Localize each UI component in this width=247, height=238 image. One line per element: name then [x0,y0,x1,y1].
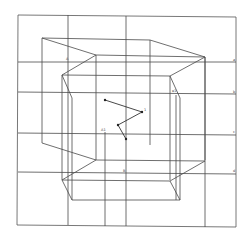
label-zigzag-2: 1 [144,108,146,112]
vertical-grid [68,15,205,227]
wireframe-drawing: A a b c d e1 A1 B 1 [0,0,247,238]
path-node-2 [141,111,143,113]
label-right-tick-2: b [233,90,236,94]
path-node-4 [125,138,127,140]
front-box [62,55,205,200]
horizontal-grid [18,62,236,174]
label-top-left-node: A [66,57,69,61]
diagram-canvas: A a b c d e1 A1 B 1 [0,0,247,238]
label-right-tick-1: a [233,58,235,62]
label-inner-right-node: e1 [172,89,176,93]
path-node-1 [104,99,106,101]
path-node-3 [117,124,119,126]
label-left-inner-node: A1 [101,128,106,132]
labels: A a b c d e1 A1 B 1 [66,57,236,173]
label-bottom-center-node: B [123,169,126,173]
label-right-tick-3: c [233,130,235,134]
outer-frame [17,15,236,227]
label-right-tick-4: d [233,169,235,173]
